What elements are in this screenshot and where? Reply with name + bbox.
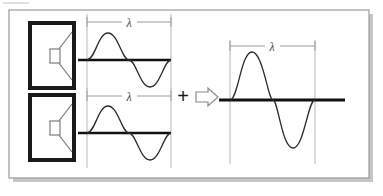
top-loudspeaker — [30, 23, 74, 88]
bottom-speaker-magnet — [50, 121, 60, 135]
figure-stage: λ λ + — [0, 0, 383, 196]
interference-diagram: λ λ + — [0, 0, 383, 196]
resultant-wavelength-label: λ — [268, 40, 274, 54]
scan-artifact — [3, 2, 29, 4]
bottom-wavelength-label: λ — [125, 90, 131, 104]
plus-icon: + — [177, 85, 189, 107]
top-speaker-magnet — [50, 49, 60, 63]
bottom-loudspeaker — [30, 95, 74, 160]
top-wavelength-label: λ — [125, 16, 131, 30]
